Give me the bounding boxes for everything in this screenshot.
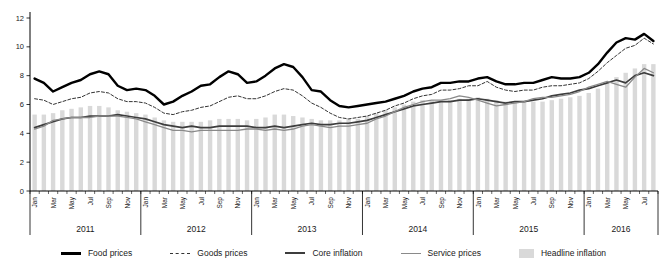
month-tick-label: Jul bbox=[419, 196, 426, 205]
month-tick-label: Sep bbox=[438, 197, 446, 209]
month-tick-label: May bbox=[179, 196, 187, 209]
month-tick-label: Mar bbox=[161, 196, 168, 208]
month-tick-label: Jul bbox=[308, 196, 315, 205]
food-prices-line-swatch bbox=[61, 252, 81, 255]
y-tick-label: 12 bbox=[16, 14, 24, 23]
chart-plot-area: 024681012JanMarMayJulSepNov2011JanMarMay… bbox=[0, 0, 667, 240]
month-tick-label: May bbox=[290, 196, 298, 209]
headline-inflation-bars bbox=[32, 64, 655, 191]
month-tick-label: Nov bbox=[124, 196, 131, 208]
month-tick-label: Nov bbox=[567, 196, 574, 208]
month-tick-label: Mar bbox=[50, 196, 57, 208]
month-tick-label: Jul bbox=[198, 196, 205, 205]
month-tick-label: Mar bbox=[493, 196, 500, 208]
month-tick-label: May bbox=[68, 196, 76, 209]
month-tick-label: Nov bbox=[234, 196, 241, 208]
y-tick-label: 6 bbox=[20, 100, 24, 109]
month-tick-label: Mar bbox=[271, 196, 278, 208]
year-label: 2012 bbox=[187, 224, 206, 234]
month-tick-label: Nov bbox=[345, 196, 352, 208]
x-axis-labels: JanMarMayJulSepNov2011JanMarMayJulSepNov… bbox=[30, 191, 658, 235]
month-tick-label: Mar bbox=[604, 196, 611, 208]
month-tick-label: Jul bbox=[87, 196, 94, 205]
legend-item-service-prices: Service prices bbox=[401, 248, 481, 258]
legend-label-headline-inflation: Headline inflation bbox=[541, 248, 606, 258]
y-tick-label: 4 bbox=[20, 129, 24, 138]
legend-item-goods-prices: Goods prices bbox=[170, 248, 247, 258]
legend-label-food-prices: Food prices bbox=[88, 248, 132, 258]
month-tick-label: Jul bbox=[530, 196, 537, 205]
y-tick-label: 2 bbox=[20, 158, 24, 167]
month-tick-label: Sep bbox=[548, 197, 556, 209]
month-tick-label: Mar bbox=[382, 196, 389, 208]
legend-item-food-prices: Food prices bbox=[61, 248, 132, 258]
legend-label-service-prices: Service prices bbox=[428, 248, 481, 258]
year-label: 2015 bbox=[519, 224, 538, 234]
year-label: 2014 bbox=[408, 224, 427, 234]
chart-legend: Food prices Goods prices Core inflation … bbox=[0, 240, 667, 266]
month-tick-label: Nov bbox=[456, 196, 463, 208]
y-tick-label: 0 bbox=[20, 187, 24, 196]
inflation-chart-figure: 024681012JanMarMayJulSepNov2011JanMarMay… bbox=[0, 0, 667, 269]
month-tick-label: Jan bbox=[142, 197, 149, 208]
goods-prices-line-swatch bbox=[170, 253, 190, 254]
axes bbox=[30, 12, 658, 191]
year-label: 2011 bbox=[76, 224, 95, 234]
core-inflation-line-swatch bbox=[285, 252, 305, 254]
legend-label-goods-prices: Goods prices bbox=[197, 248, 247, 258]
year-label: 2016 bbox=[612, 224, 631, 234]
month-tick-label: Jan bbox=[364, 197, 371, 208]
headline-inflation-bar-swatch bbox=[519, 249, 534, 258]
y-tick-label: 10 bbox=[16, 42, 24, 51]
month-tick-label: Jul bbox=[641, 196, 648, 205]
month-tick-label: Sep bbox=[105, 197, 113, 209]
service-prices-line-swatch bbox=[401, 253, 421, 254]
y-axis-ticks: 024681012 bbox=[16, 14, 30, 196]
legend-item-headline-inflation: Headline inflation bbox=[519, 248, 606, 258]
month-tick-label: Sep bbox=[216, 197, 224, 209]
month-tick-label: Jan bbox=[585, 197, 592, 208]
month-tick-label: Jan bbox=[475, 197, 482, 208]
legend-item-core-inflation: Core inflation bbox=[285, 248, 362, 258]
legend-label-core-inflation: Core inflation bbox=[312, 248, 362, 258]
month-tick-label: Jan bbox=[31, 197, 38, 208]
month-tick-label: May bbox=[512, 196, 520, 209]
y-tick-label: 8 bbox=[20, 71, 24, 80]
year-label: 2013 bbox=[298, 224, 317, 234]
month-tick-label: Sep bbox=[327, 197, 335, 209]
month-tick-label: May bbox=[622, 196, 630, 209]
month-tick-label: Jan bbox=[253, 197, 260, 208]
month-tick-label: May bbox=[401, 196, 409, 209]
